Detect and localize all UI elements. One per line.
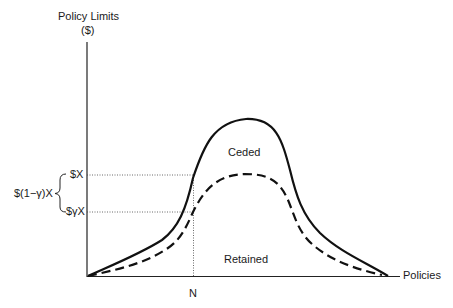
y-marker-upper-label: $X: [70, 169, 83, 180]
region-ceded-label: Ceded: [228, 147, 260, 158]
y-axis-label-line2: ($): [81, 25, 94, 36]
y-marker-lower-label: $γX: [66, 206, 85, 217]
y-axis-label-line1: Policy Limits: [58, 11, 119, 22]
bracket-icon: [55, 174, 66, 212]
n-marker-label: N: [189, 288, 197, 299]
x-axis-label: Policies: [403, 270, 441, 281]
region-retained-label: Retained: [224, 254, 268, 265]
bracket-label: $(1−γ)X: [14, 188, 53, 199]
